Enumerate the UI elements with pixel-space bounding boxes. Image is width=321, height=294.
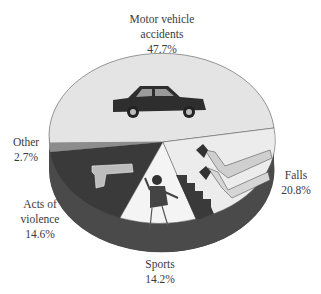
label-falls: Falls 20.8% [274, 168, 318, 198]
label-other: Other 2.7% [6, 135, 46, 165]
label-motor-vehicle: Motor vehicle accidents 47.7% [110, 12, 214, 57]
label-acts-of-violence: Acts of violence 14.6% [10, 197, 70, 242]
label-sports: Sports 14.2% [135, 257, 185, 287]
